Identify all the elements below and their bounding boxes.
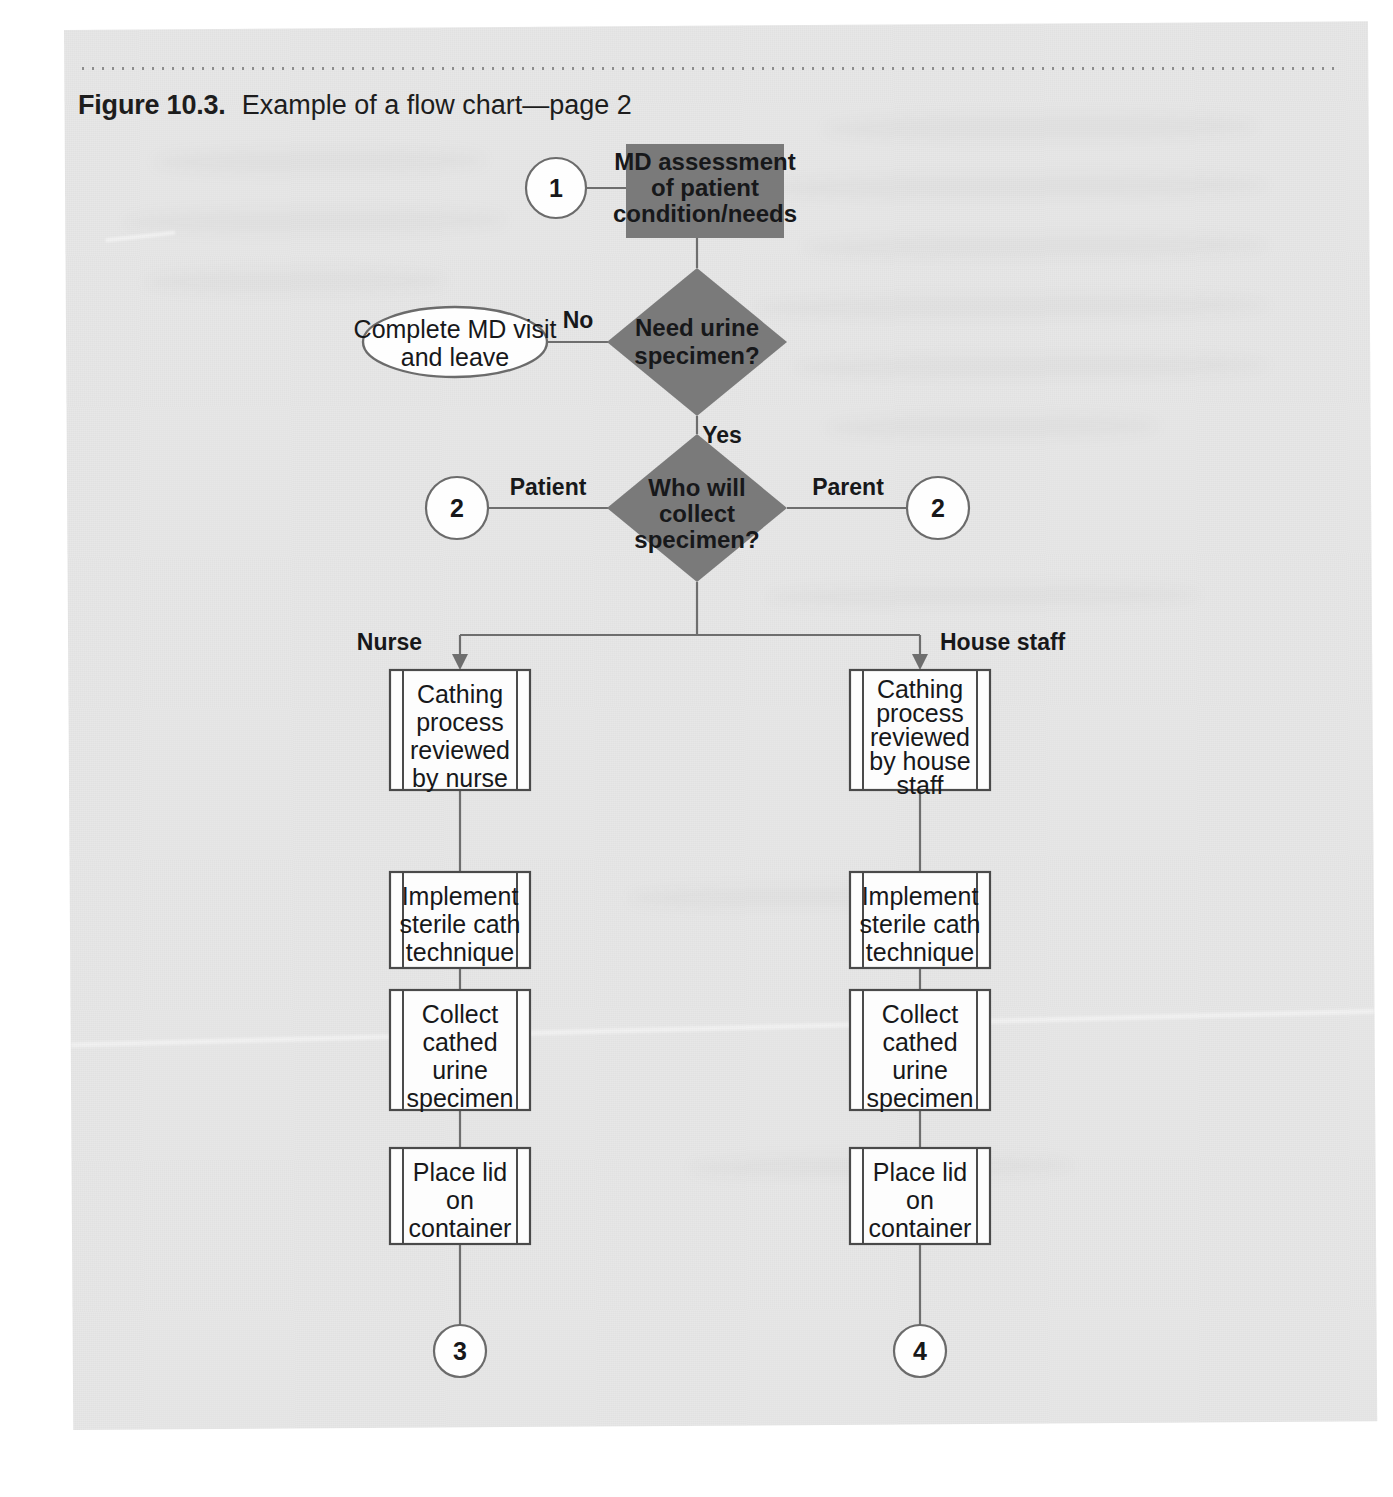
page-bleed-through xyxy=(796,352,1266,381)
figure-divider-rule xyxy=(78,66,1340,71)
figure-title: Example of a flow chart—page 2 xyxy=(242,90,632,120)
page-bleed-through xyxy=(630,884,930,910)
page-bleed-through xyxy=(691,1153,1071,1180)
page-bleed-through xyxy=(765,172,1265,201)
page-bleed-through xyxy=(756,292,1266,321)
page-bleed-through xyxy=(146,267,446,295)
figure-caption: Figure 10.3.Example of a flow chart—page… xyxy=(78,88,632,122)
figure-number: Figure 10.3. xyxy=(78,90,226,120)
page-bleed-through xyxy=(768,582,1198,609)
page-bleed-through xyxy=(125,207,505,236)
scanner-streak xyxy=(105,231,175,243)
scanned-page-sheet xyxy=(64,21,1377,1430)
page-bleed-through xyxy=(827,413,1157,441)
page-bleed-through xyxy=(805,232,1265,261)
page-bleed-through xyxy=(155,147,485,175)
scanner-streak xyxy=(71,1009,1375,1048)
page-bleed-through xyxy=(825,112,1255,143)
